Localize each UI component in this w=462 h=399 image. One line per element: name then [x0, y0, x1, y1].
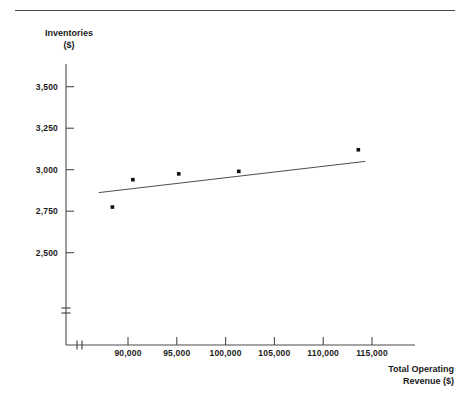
data-point	[111, 205, 115, 209]
y-tick-label-2750: 2,750	[16, 206, 58, 216]
data-points-group	[111, 148, 361, 209]
x-tick-label-115000: 115,000	[349, 348, 395, 358]
plot-canvas	[0, 0, 462, 399]
x-tick-marks	[128, 337, 372, 345]
x-tick-label-110000: 110,000	[300, 348, 346, 358]
x-tick-label-100000: 100,000	[203, 348, 249, 358]
y-tick-label-3000: 3,000	[16, 165, 58, 175]
y-tick-label-3250: 3,250	[16, 123, 58, 133]
scatter-chart-figure: Inventories ($) Total Operating Revenue …	[0, 0, 462, 399]
x-tick-label-95000: 95,000	[154, 348, 200, 358]
trend-line	[99, 161, 365, 192]
y-tick-label-2500: 2,500	[16, 248, 58, 258]
data-point	[131, 178, 135, 182]
x-tick-label-105000: 105,000	[251, 348, 297, 358]
y-tick-marks	[66, 87, 74, 253]
data-point	[237, 170, 241, 174]
data-point	[357, 148, 361, 152]
x-tick-label-90000: 90,000	[105, 348, 151, 358]
y-tick-label-3500: 3,500	[16, 82, 58, 92]
y-axis-group	[62, 64, 71, 345]
data-point	[177, 172, 181, 176]
